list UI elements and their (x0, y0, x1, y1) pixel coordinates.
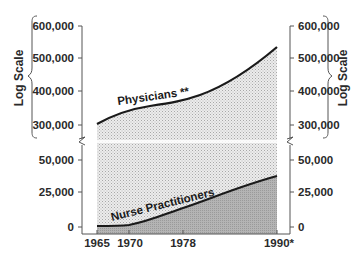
left-tick-0: 0 (68, 221, 74, 233)
right-tick-500000: 500,000 (298, 52, 340, 64)
left-tick-25000: 25,000 (39, 186, 74, 198)
x-tick-1978: 1978 (170, 237, 196, 249)
x-tick-1990: 1990* (264, 237, 295, 249)
right-tick-50000: 50,000 (298, 154, 333, 166)
right-tick-0: 0 (298, 221, 304, 233)
x-tick-1965: 1965 (84, 237, 110, 249)
right-axis-title: Log Scale (336, 49, 350, 106)
right-tick-600000: 600,000 (298, 20, 340, 32)
left-tick-600000: 600,000 (32, 20, 74, 32)
right-tick-300000: 300,000 (298, 119, 340, 131)
right-tick-400000: 400,000 (298, 85, 340, 97)
left-tick-50000: 50,000 (39, 154, 74, 166)
left-tick-400000: 400,000 (32, 85, 74, 97)
left-tick-300000: 300,000 (32, 119, 74, 131)
right-y-axis (287, 26, 294, 234)
left-axis-title: Log Scale (12, 49, 26, 106)
x-tick-1970: 1970 (117, 237, 143, 249)
chart-canvas: 600,000 500,000 400,000 300,000 50,000 2… (0, 0, 360, 262)
left-y-axis (78, 26, 85, 234)
left-tick-500000: 500,000 (32, 52, 74, 64)
axis-break-band (97, 140, 277, 143)
right-tick-25000: 25,000 (298, 186, 333, 198)
